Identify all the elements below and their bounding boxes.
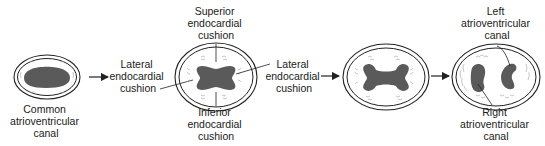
label-superior-cushion: Superior endocardial cushion [187, 5, 244, 41]
av-canal-partition-diagram: Common atrioventricular canal Lateral en… [0, 0, 545, 146]
canal-lumen-bone-shaped [363, 64, 409, 91]
outer-wall-outline [452, 44, 540, 110]
label-lateral-cushion-left: Lateral endocardial cushion [109, 58, 166, 94]
canal-lumen-x-shaped [197, 66, 236, 90]
stage-1-common-canal: Common atrioventricular canal [10, 55, 82, 139]
label-right-av-canal: Right atrioventricular canal [460, 106, 532, 142]
label-lateral-cushion-right: Lateral endocardial cushion [265, 58, 322, 94]
stage-4-divided-canals: Left atrioventricular canal Right atriov… [452, 5, 540, 142]
left-av-canal-lumen [501, 64, 516, 89]
leader-right-av-canal [478, 84, 492, 105]
label-left-av-canal: Left atrioventricular canal [461, 5, 533, 41]
label-inferior-cushion: Inferior endocardial cushion [187, 106, 244, 142]
stage-2-cushions: Lateral endocardial cushion Superior end… [109, 5, 322, 142]
common-canal-lumen [24, 67, 70, 88]
cushion-hatching [460, 55, 529, 98]
right-av-canal-lumen [471, 64, 485, 92]
stage-3-fusing-cushions [343, 44, 429, 110]
label-common-av-canal: Common atrioventricular canal [10, 103, 82, 139]
inner-wall-outline [456, 48, 536, 106]
